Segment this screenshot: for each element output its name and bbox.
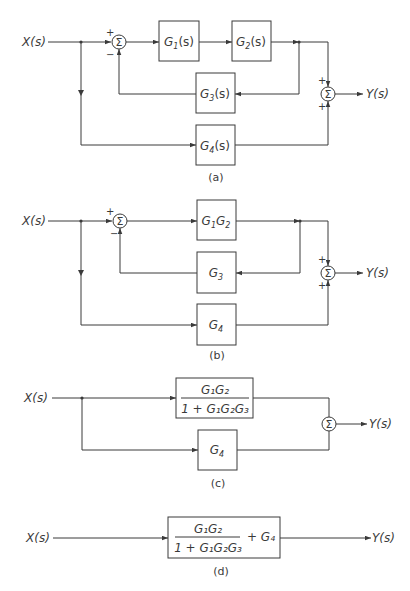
denominator: 1 + G₁G₂G₃ bbox=[181, 402, 249, 416]
block-g4-c: G4 bbox=[198, 430, 237, 470]
input-label-c: X(s) bbox=[23, 391, 48, 405]
direction-arrow bbox=[78, 270, 84, 276]
diagram-d: X(s) G₁G₂ 1 + G₁G₂G₃ + G₄ Y(s) (d) bbox=[25, 517, 395, 578]
summing-junction-2-a: Σ bbox=[321, 87, 335, 101]
denominator: 1 + G₁G₂G₃ bbox=[174, 541, 242, 555]
block-g1-a: G1(s) bbox=[159, 21, 199, 61]
caption-d: (d) bbox=[213, 565, 229, 578]
input-label-a: X(s) bbox=[21, 35, 46, 49]
plus-sign: + bbox=[106, 27, 114, 38]
summing-junction-1-b: Σ bbox=[113, 214, 127, 228]
svg-text:Σ: Σ bbox=[326, 418, 333, 431]
input-label-b: X(s) bbox=[21, 214, 46, 228]
caption-c: (c) bbox=[211, 477, 226, 490]
diagram-b: X(s) Σ + − G1G2 G3 G4 Σ bbox=[21, 200, 389, 362]
plus-sign: + bbox=[106, 206, 114, 217]
output-label-c: Y(s) bbox=[369, 417, 392, 431]
numerator: G₁G₂ bbox=[194, 522, 222, 536]
block-g2-a: G2(s) bbox=[232, 21, 271, 61]
feedback-line-to-g3 bbox=[236, 221, 300, 273]
feedback-line-to-sum1 bbox=[120, 228, 197, 273]
plus-sign: + bbox=[318, 75, 326, 86]
minus-sign: − bbox=[110, 228, 118, 239]
output-label-b: Y(s) bbox=[366, 266, 389, 280]
plus-sign: + bbox=[318, 101, 326, 112]
minus-sign: − bbox=[106, 49, 114, 60]
svg-text:Σ: Σ bbox=[117, 215, 124, 228]
svg-text:G2(s): G2(s) bbox=[236, 35, 266, 51]
svg-text:G3(s): G3(s) bbox=[200, 87, 230, 103]
svg-text:Σ: Σ bbox=[325, 88, 332, 101]
g4-to-sum2-line bbox=[236, 280, 328, 325]
svg-text:G1(s): G1(s) bbox=[164, 35, 194, 51]
summing-junction-2-b: Σ bbox=[321, 266, 335, 280]
sigma-symbol: Σ bbox=[116, 36, 123, 49]
block-diagram-figure: X(s) Σ + − G1(s) G2(s) G3(s) bbox=[0, 0, 410, 591]
caption-a: (a) bbox=[208, 171, 223, 184]
block-closed-loop-c: G₁G₂ 1 + G₁G₂G₃ bbox=[176, 378, 253, 418]
svg-text:G4(s): G4(s) bbox=[200, 139, 230, 155]
output-label-d: Y(s) bbox=[372, 531, 395, 545]
direction-arrow bbox=[78, 90, 84, 96]
block-g3-b: G3 bbox=[197, 252, 236, 293]
plus-sign: + bbox=[318, 254, 326, 265]
diagram-c: X(s) G₁G₂ 1 + G₁G₂G₃ G4 Σ Y(s) (c) bbox=[23, 378, 392, 490]
diagram-a: X(s) Σ + − G1(s) G2(s) G3(s) bbox=[21, 21, 389, 184]
block-g4-b: G4 bbox=[197, 304, 236, 345]
plus-g4-term: + G₄ bbox=[247, 530, 275, 544]
forward-to-sum-line bbox=[253, 398, 329, 417]
input-label-d: X(s) bbox=[25, 531, 50, 545]
block-g3-a: G3(s) bbox=[196, 73, 235, 113]
caption-b: (b) bbox=[209, 349, 225, 362]
g4-to-sum-line bbox=[237, 431, 329, 450]
block-g4-a: G4(s) bbox=[196, 125, 235, 165]
g4-to-sum2-line bbox=[235, 101, 328, 145]
numerator: G₁G₂ bbox=[201, 383, 229, 397]
svg-text:Σ: Σ bbox=[325, 267, 332, 280]
output-label-a: Y(s) bbox=[366, 87, 389, 101]
summing-junction-c: Σ bbox=[322, 417, 336, 431]
block-total-d: G₁G₂ 1 + G₁G₂G₃ + G₄ bbox=[168, 517, 280, 558]
plus-sign: + bbox=[318, 280, 326, 291]
block-g1g2-b: G1G2 bbox=[197, 200, 236, 240]
